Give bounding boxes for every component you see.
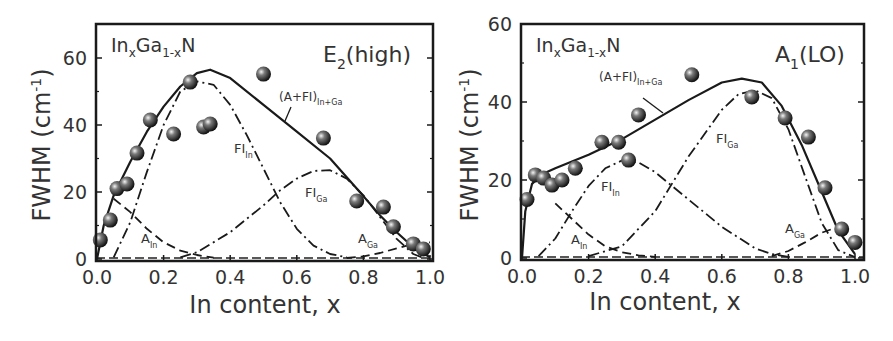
data-point: [256, 67, 271, 82]
series-line-ain: [114, 199, 214, 258]
right-material-label: InxGa1-xN: [536, 34, 620, 60]
data-point: [143, 113, 158, 128]
x-tick-label: 1.0: [415, 266, 445, 288]
x-tick-label: 0.8: [773, 265, 803, 287]
data-point: [103, 213, 118, 228]
y-tick-label: 0: [500, 247, 512, 269]
data-point: [801, 130, 816, 145]
data-point: [684, 67, 699, 82]
x-tick-label: 0.2: [148, 266, 178, 288]
x-tick-label: 0.6: [707, 265, 737, 287]
data-point: [386, 219, 401, 234]
y-tick-label: 60: [63, 47, 87, 69]
data-point: [203, 117, 218, 132]
data-point: [848, 235, 863, 250]
right-mode-label: A1(LO): [775, 42, 845, 72]
data-point: [778, 111, 793, 126]
data-point: [316, 131, 331, 146]
left-annotation-a-ga: AGa: [358, 231, 378, 250]
left-material-label: InxGa1-xN: [111, 34, 195, 60]
y-tick-label: 40: [488, 91, 512, 113]
data-point: [834, 222, 849, 237]
right-series-layer: [520, 67, 865, 258]
data-point: [631, 107, 646, 122]
left-x-axis-title: In content, x: [189, 291, 340, 319]
left-annotation-pointer: [285, 107, 291, 121]
right-annotation-fi-ga: FIGa: [716, 131, 739, 150]
right-annotation-fi-in: FIIn: [601, 179, 620, 198]
data-point: [818, 180, 833, 195]
data-point: [744, 89, 759, 104]
right-x-axis-title: In content, x: [589, 288, 740, 316]
right-annotation-a-in: AIn: [571, 232, 587, 251]
left-y-axis-title: FWHM (cm-1): [28, 68, 56, 221]
figure: 0.00.20.40.60.81.00204060 InxGa1-xN E2(h…: [0, 0, 893, 341]
data-point: [611, 135, 626, 150]
right-annotation-a-ga: AGa: [785, 221, 805, 240]
series-line-aga: [772, 227, 839, 256]
data-point: [130, 146, 145, 161]
x-tick-label: 0.2: [573, 265, 603, 287]
y-tick-label: 20: [63, 181, 87, 203]
series-line-ain: [555, 203, 655, 256]
left-mode-label: E2(high): [323, 42, 411, 72]
data-point: [183, 75, 198, 90]
data-point: [594, 135, 609, 150]
left-annotation-fi-ga: FIGa: [305, 185, 328, 204]
y-tick-label: 60: [488, 13, 512, 35]
data-point: [416, 241, 431, 256]
data-point: [376, 200, 391, 215]
x-tick-label: 0.6: [282, 266, 312, 288]
chart-canvas: 0.00.20.40.60.81.00204060 InxGa1-xN E2(h…: [0, 0, 893, 341]
left-ticks: 0.00.20.40.60.81.00204060: [63, 47, 445, 288]
x-tick-label: 0.4: [215, 266, 245, 288]
left-annotation-total: (A+FI)In+Ga: [279, 90, 342, 107]
y-tick-label: 0: [75, 248, 87, 270]
left-annotation-a-in: AIn: [141, 231, 157, 250]
data-point: [621, 153, 636, 168]
right-annotation-pointer: [643, 98, 663, 113]
data-point: [555, 173, 570, 188]
data-point: [166, 127, 181, 142]
right-annotation-total: (A+FI)In+Ga: [599, 70, 662, 87]
panel-a1-lo: 0.00.20.40.60.81.00204060 InxGa1-xN A1(L…: [456, 13, 870, 316]
right-y-axis-title: FWHM (cm-1): [456, 68, 484, 221]
y-tick-label: 20: [488, 169, 512, 191]
left-annotation-fi-in: FIIn: [234, 141, 253, 160]
series-line-figa: [180, 170, 423, 258]
x-tick-label: 1.0: [840, 265, 870, 287]
panel-e2-high: 0.00.20.40.60.81.00204060 InxGa1-xN E2(h…: [28, 24, 445, 319]
x-tick-label: 0.8: [348, 266, 378, 288]
data-point: [120, 177, 135, 192]
data-point: [349, 194, 364, 209]
data-point: [568, 161, 583, 176]
y-tick-label: 40: [63, 114, 87, 136]
x-tick-label: 0.4: [640, 265, 670, 287]
